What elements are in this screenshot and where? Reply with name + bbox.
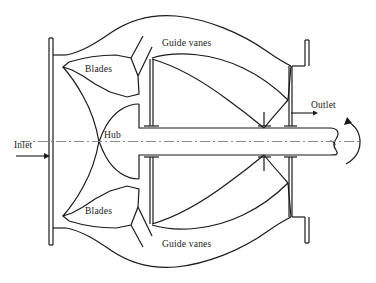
guide-vane-top — [152, 54, 291, 128]
blade-connectors-bottom — [131, 207, 152, 247]
label-blades-bottom: Blades — [85, 207, 112, 217]
impeller-blade-top — [63, 55, 139, 97]
rotation-arrow-icon — [344, 117, 360, 164]
guide-vane-bottom — [152, 155, 291, 229]
label-outlet: Outlet — [311, 101, 336, 111]
label-guide-vanes-bottom: Guide vanes — [162, 240, 211, 250]
blade-connectors-top — [131, 36, 152, 76]
label-blades-top: Blades — [85, 65, 112, 75]
label-hub: Hub — [104, 131, 121, 141]
support-post-top-left — [144, 59, 159, 126]
support-post-bottom-left — [144, 157, 159, 224]
label-inlet: Inlet — [14, 141, 32, 151]
inlet-arrow-icon — [16, 153, 50, 159]
outlet-arrow-icon — [291, 111, 318, 116]
figure-canvas: Guide vanes Guide vanes Blades Blades Hu… — [0, 0, 376, 283]
label-guide-vanes-top: Guide vanes — [162, 39, 211, 49]
